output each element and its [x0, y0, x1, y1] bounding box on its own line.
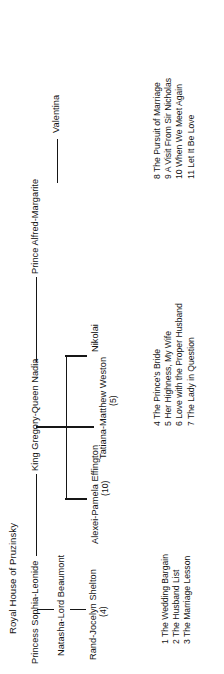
booklist-item: 1 The Wedding Bargain — [160, 554, 171, 644]
rotated-diagram-wrapper: Royal House of Pruzinsky Princess Sophia… — [0, 0, 224, 674]
node-prince-alfred-margarite: Prince Alfred-Margarite — [30, 179, 40, 274]
spine-segment-king-to-alfred — [36, 277, 38, 362]
book-title: The Wedding Bargain — [160, 554, 170, 637]
node-rand-jocelyn-shelton-count: (4) — [99, 606, 109, 617]
node-tatiana-matthew-weston-count: (5) — [109, 395, 119, 406]
book-number: 3 — [182, 639, 192, 644]
book-number: 8 — [152, 174, 162, 179]
diagram-title: Royal House of Pruzinsky — [8, 523, 19, 634]
node-valentina: Valentina — [51, 95, 61, 133]
book-title: The Lady in Question — [186, 337, 196, 419]
book-number: 6 — [174, 421, 184, 426]
connector-bracket-to-nikolai — [65, 355, 87, 357]
node-king-gregory-queen-nadia: King Gregory-Queen Nadia — [30, 358, 40, 471]
book-number: 2 — [171, 639, 181, 644]
book-number: 5 — [163, 421, 173, 426]
family-tree-canvas: Royal House of Pruzinsky Princess Sophia… — [0, 0, 224, 674]
node-alexei-pamela-effington: Alexei-Pamela Effington — [90, 445, 100, 544]
booklist-item: 3 The Marriage Lesson — [182, 554, 193, 644]
spine-segment-sophia-to-king — [36, 474, 38, 556]
connector-natasha-to-rand — [70, 609, 86, 610]
book-number: 11 — [186, 170, 196, 179]
booklist-item: 11 Let It Be Love — [186, 78, 197, 179]
book-number: 4 — [152, 421, 162, 426]
booklist-item: 10 When We Meet Again — [174, 78, 185, 179]
connector-king-to-children-bracket — [36, 426, 66, 428]
book-title: Her Highness, My Wife — [163, 331, 173, 419]
booklist-sophia-line: 1 The Wedding Bargain 2 The Husband List… — [160, 554, 194, 644]
book-title: The Marriage Lesson — [182, 556, 192, 637]
booklist-item: 6 Love with the Proper Husband — [174, 303, 185, 426]
book-number: 1 — [160, 639, 170, 644]
booklist-item: 2 The Husband List — [171, 554, 182, 644]
book-number: 10 — [174, 169, 184, 179]
book-number: 9 — [163, 174, 173, 179]
booklist-item: 5 Her Highness, My Wife — [163, 303, 174, 426]
node-alexei-pamela-effington-count: (10) — [101, 481, 111, 496]
book-title: A Visit From Sir Nicholas — [163, 78, 173, 172]
book-title: When We Meet Again — [174, 84, 184, 167]
book-title: Love with the Proper Husband — [174, 303, 184, 419]
connector-sophia-to-natasha — [37, 609, 54, 610]
book-title: The Pursuit of Marriage — [152, 82, 162, 172]
children-bracket-rail — [66, 356, 68, 500]
node-rand-jocelyn-shelton: Rand-Jocelyn Shelton — [88, 569, 98, 660]
node-nikolai: Nikolai — [90, 324, 100, 352]
book-number: 7 — [186, 421, 196, 426]
booklist-item: 8 The Pursuit of Marriage — [152, 78, 163, 179]
booklist-alfred-line: 8 The Pursuit of Marriage 9 A Visit From… — [152, 78, 197, 179]
booklist-item: 9 A Visit From Sir Nicholas — [163, 78, 174, 179]
book-title: The Prince's Bride — [152, 349, 162, 419]
book-title: The Husband List — [171, 570, 181, 637]
booklist-item: 4 The Prince's Bride — [152, 303, 163, 426]
node-princess-sophia-leonide: Princess Sophia-Leonide — [30, 561, 40, 664]
connector-alfred-to-valentina — [57, 139, 59, 183]
connector-bracket-to-tatiana — [65, 426, 94, 428]
node-natasha-lord-beaumont: Natasha-Lord Beaumont — [56, 555, 66, 656]
node-tatiana-matthew-weston: Tatiana-Matthew Weston — [98, 357, 108, 459]
booklist-item: 7 The Lady in Question — [186, 303, 197, 426]
book-title: Let It Be Love — [186, 115, 196, 168]
booklist-effington-line: 4 The Prince's Bride 5 Her Highness, My … — [152, 303, 197, 426]
connector-bracket-to-alexei — [65, 498, 87, 500]
